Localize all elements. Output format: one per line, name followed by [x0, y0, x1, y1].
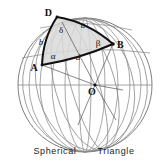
spherical-triangle-figure: D A B O a b d δ α β Spherical Triangle: [0, 0, 168, 165]
vertex-label-O: O: [88, 86, 96, 97]
side-label-d: d: [76, 52, 81, 62]
angle-label-alpha: α: [51, 51, 56, 61]
angle-label-delta: δ: [59, 25, 63, 35]
side-label-a: a: [81, 20, 86, 30]
radius-extension-3: [95, 85, 123, 90]
radius-extension-2: [95, 85, 116, 120]
vertex-dot-D: [56, 16, 59, 19]
vertex-dot-A: [41, 64, 44, 67]
vertex-label-B: B: [117, 39, 124, 50]
side-label-b: b: [39, 37, 44, 47]
figure-caption: Spherical Triangle: [0, 146, 168, 156]
vertex-dot-B: [111, 42, 115, 46]
radius-OA: [42, 65, 95, 85]
vertex-label-D: D: [45, 7, 52, 18]
angle-label-beta: β: [96, 38, 101, 48]
sphere-diagram: D A B O a b d δ α β: [0, 0, 168, 165]
vertex-label-A: A: [30, 62, 38, 73]
